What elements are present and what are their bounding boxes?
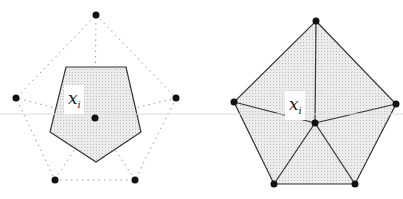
diagram-canvas bbox=[0, 0, 403, 199]
neighbor-point bbox=[313, 18, 320, 25]
label-sub: i bbox=[78, 99, 81, 110]
neighbor-point bbox=[231, 99, 238, 106]
right-point-label: xi bbox=[285, 91, 305, 120]
neighbor-point bbox=[271, 181, 278, 188]
label-var: x bbox=[68, 88, 78, 108]
center-point bbox=[312, 120, 319, 127]
neighbor-point bbox=[93, 12, 100, 19]
neighbor-point bbox=[393, 101, 400, 108]
label-var: x bbox=[289, 94, 299, 114]
neighbor-point bbox=[52, 177, 59, 184]
label-sub: i bbox=[299, 105, 302, 116]
neighbor-point bbox=[13, 95, 20, 102]
center-point bbox=[92, 115, 99, 122]
right-panel-triangulation bbox=[231, 18, 400, 188]
neighbor-point bbox=[173, 95, 180, 102]
left-point-label: xi bbox=[64, 85, 84, 114]
neighbor-point bbox=[132, 177, 139, 184]
neighbor-point bbox=[352, 181, 359, 188]
left-panel-voronoi bbox=[13, 12, 180, 184]
